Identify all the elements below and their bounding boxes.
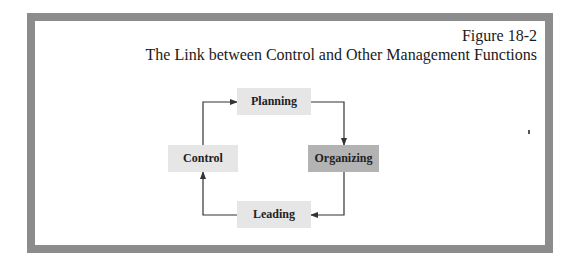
scan-speck: [528, 130, 530, 134]
node-organizing: Organizing: [308, 145, 379, 172]
node-leading: Leading: [237, 201, 311, 228]
figure-number: Figure 18-2: [462, 27, 537, 45]
figure-title: The Link between Control and Other Manag…: [146, 46, 537, 64]
node-control: Control: [168, 145, 238, 172]
node-planning: Planning: [237, 88, 311, 115]
